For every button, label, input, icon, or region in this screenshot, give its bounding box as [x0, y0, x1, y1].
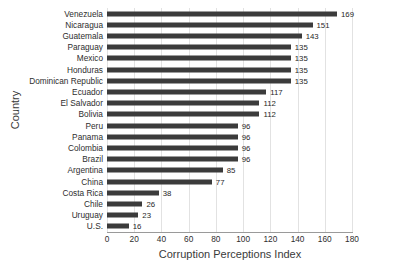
bar-row: Chile26 [107, 198, 393, 209]
bar-row: Argentina85 [107, 165, 393, 176]
bar [107, 112, 259, 117]
x-tick-label: 20 [130, 234, 139, 244]
category-label: Brazil [82, 154, 103, 164]
bar-row: Bolivia112 [107, 109, 393, 120]
bar-value-label: 151 [317, 20, 330, 29]
bar-value-label: 112 [263, 110, 275, 119]
category-label: Panama [72, 132, 103, 142]
bar [107, 67, 291, 72]
bar-row: U.S.16 [107, 221, 393, 232]
bar [107, 157, 238, 162]
category-label: Argentina [67, 165, 103, 175]
bar-value-label: 96 [242, 121, 251, 130]
bar-value-label: 16 [133, 222, 142, 231]
bar-row: Honduras135 [107, 64, 393, 75]
bar-value-label: 96 [242, 155, 251, 164]
bar-row: Uruguay23 [107, 210, 393, 221]
bar-value-label: 96 [242, 132, 251, 141]
x-tick-label: 80 [211, 234, 220, 244]
bar-value-label: 169 [341, 9, 354, 18]
bar-value-label: 135 [295, 65, 308, 74]
bar-row: Paraguay135 [107, 42, 393, 53]
category-label: Honduras [67, 65, 103, 75]
bar-value-label: 135 [295, 43, 308, 52]
bar-value-label: 85 [227, 166, 236, 175]
category-label: Paraguay [67, 42, 103, 52]
x-tick-label: 100 [236, 234, 250, 244]
bar-row: Peru96 [107, 120, 393, 131]
bar-value-label: 135 [295, 76, 308, 85]
category-label: Mexico [77, 53, 103, 63]
category-label: China [81, 177, 103, 187]
bar [107, 213, 138, 218]
category-label: Costa Rica [62, 188, 103, 198]
bar [107, 101, 259, 106]
bar [107, 179, 212, 184]
x-axis-title: Corruption Perceptions Index [107, 248, 353, 260]
x-tick-label: 60 [184, 234, 193, 244]
bar [107, 134, 238, 139]
bar-row: Brazil96 [107, 154, 393, 165]
bar-row: Costa Rica38 [107, 187, 393, 198]
category-label: Guatemala [62, 31, 103, 41]
category-label: Ecuador [72, 87, 103, 97]
y-axis-title: Country [9, 70, 21, 150]
category-label: Colombia [68, 143, 103, 153]
bar [107, 224, 129, 229]
category-label: Peru [85, 121, 103, 131]
bar [107, 45, 291, 50]
x-tick-label: 140 [291, 234, 305, 244]
bar [107, 123, 238, 128]
bar-value-label: 77 [216, 177, 225, 186]
category-label: Nicaragua [65, 20, 103, 30]
bar-rows: Venezuela169Nicaragua151Guatemala143Para… [107, 8, 352, 232]
bar [107, 201, 142, 206]
x-tick-label: 40 [157, 234, 166, 244]
bar [107, 78, 291, 83]
bar-value-label: 112 [263, 99, 275, 108]
bar-value-label: 26 [146, 199, 155, 208]
bar-row: Mexico135 [107, 53, 393, 64]
bar-value-label: 135 [295, 54, 308, 63]
bar-row: Venezuela169 [107, 8, 393, 19]
category-label: Chile [84, 199, 103, 209]
plot-area: Venezuela169Nicaragua151Guatemala143Para… [107, 8, 352, 232]
corruption-perceptions-index-bar-chart: Country Venezuela169Nicaragua151Guatemal… [0, 0, 393, 272]
bar-value-label: 38 [163, 188, 172, 197]
bar-value-label: 96 [242, 143, 251, 152]
bar-row: Nicaragua151 [107, 19, 393, 30]
bar [107, 190, 159, 195]
x-axis-tick-labels: 020406080100120140160180 [107, 234, 353, 248]
category-label: U.S. [87, 221, 103, 231]
category-label: El Salvador [61, 98, 103, 108]
bar [107, 22, 313, 27]
category-label: Venezuela [64, 9, 103, 19]
x-tick-label: 160 [318, 234, 332, 244]
bar [107, 33, 302, 38]
bar [107, 145, 238, 150]
bar [107, 89, 266, 94]
x-tick-label: 0 [105, 234, 110, 244]
x-tick-label: 180 [345, 234, 359, 244]
bar-row: China77 [107, 176, 393, 187]
bar-row: El Salvador112 [107, 98, 393, 109]
category-label: Dominican Republic [29, 76, 103, 86]
bar-value-label: 23 [142, 211, 151, 220]
bar [107, 168, 223, 173]
bar-row: Ecuador117 [107, 86, 393, 97]
bar [107, 56, 291, 61]
x-axis-line [107, 232, 353, 233]
bar-row: Dominican Republic135 [107, 75, 393, 86]
bar-row: Panama96 [107, 131, 393, 142]
x-tick-label: 120 [263, 234, 277, 244]
bar-row: Colombia96 [107, 142, 393, 153]
bar [107, 11, 337, 16]
category-label: Bolivia [79, 109, 103, 119]
bar-value-label: 143 [306, 31, 319, 40]
bar-value-label: 117 [270, 87, 282, 96]
bar-row: Guatemala143 [107, 30, 393, 41]
category-label: Uruguay [72, 210, 103, 220]
